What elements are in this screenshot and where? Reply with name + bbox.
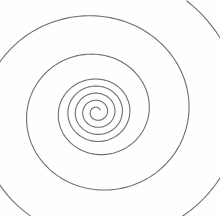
spiral-icon bbox=[0, 0, 220, 216]
spiral-line bbox=[14, 26, 207, 182]
spiral-path bbox=[0, 1, 220, 216]
spiral-drawing: Spiral line drawing bbox=[0, 0, 220, 216]
